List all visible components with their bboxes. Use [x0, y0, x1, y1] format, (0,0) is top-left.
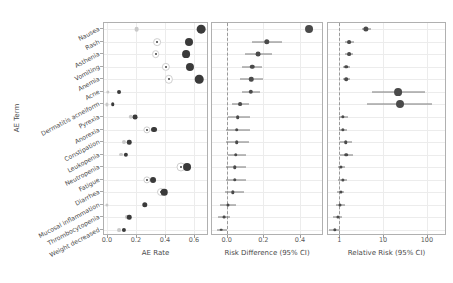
grid-line-horizontal: [212, 104, 322, 105]
x-tick-label: 0.6: [189, 236, 199, 244]
data-point-control: [106, 90, 109, 93]
grid-line-horizontal: [212, 230, 322, 231]
data-point-control-center: [146, 129, 148, 131]
data-point-treatment: [142, 202, 147, 207]
x-tick-label: 0.2: [258, 236, 268, 244]
point-estimate-marker: [345, 78, 349, 82]
point-estimate-marker: [340, 166, 343, 169]
point-estimate-marker: [333, 228, 336, 231]
point-estimate-marker: [339, 191, 342, 194]
data-point-control-center: [156, 41, 158, 43]
point-estimate-marker: [347, 52, 351, 56]
data-point-treatment: [133, 115, 138, 120]
x-tick-label: 0.2: [131, 236, 141, 244]
grid-line-vertical: [427, 23, 428, 234]
data-point-treatment: [161, 189, 168, 196]
point-estimate-marker: [233, 178, 236, 181]
grid-line-vertical: [136, 23, 137, 234]
x-tick-label: 0.4: [295, 236, 305, 244]
point-estimate-marker: [236, 115, 240, 119]
data-point-control-center: [165, 66, 167, 68]
grid-line-vertical: [194, 23, 195, 234]
data-point-control: [119, 153, 123, 157]
grid-line-horizontal: [212, 79, 322, 80]
point-estimate-marker: [239, 103, 243, 107]
data-point-treatment: [121, 228, 125, 232]
point-estimate-marker: [235, 140, 239, 144]
data-point-control: [122, 140, 126, 144]
grid-line-horizontal: [104, 104, 207, 105]
point-estimate-marker: [396, 100, 404, 108]
panel-relative-risk-plot-area: [328, 23, 445, 234]
grid-line-horizontal: [104, 117, 207, 118]
grid-line-horizontal: [104, 217, 207, 218]
point-estimate-marker: [345, 65, 349, 69]
panel-risk-difference-plot-area: [212, 23, 322, 234]
data-point-treatment: [127, 140, 132, 145]
point-estimate-marker: [305, 25, 313, 33]
x-axis-label-risk-difference: Risk Difference (95% CI): [224, 249, 309, 257]
point-estimate-marker: [341, 128, 344, 131]
y-axis-title: AE Term: [13, 104, 21, 132]
point-estimate-marker: [264, 39, 269, 44]
point-estimate-marker: [344, 140, 348, 144]
grid-line-horizontal: [104, 192, 207, 193]
data-point-treatment: [195, 75, 204, 84]
panel-risk-difference: [211, 22, 323, 235]
data-point-treatment: [183, 163, 191, 171]
grid-line-vertical: [165, 23, 166, 234]
data-point-treatment: [185, 38, 193, 46]
point-estimate-marker: [341, 115, 344, 118]
data-point-treatment: [150, 177, 156, 183]
grid-line-horizontal: [212, 67, 322, 68]
point-estimate-marker: [222, 216, 225, 219]
data-point-treatment: [124, 152, 128, 156]
data-point-control-center: [155, 53, 157, 55]
point-estimate-marker: [394, 88, 402, 96]
panel-ae-rate: [103, 22, 208, 235]
data-point-treatment: [111, 103, 115, 107]
x-tick-label: 0.0: [221, 236, 231, 244]
x-axis-label-relative-risk: Relative Risk (95% CI): [348, 249, 425, 257]
x-tick-label: 100: [421, 236, 433, 244]
grid-line-vertical: [383, 23, 384, 234]
data-point-treatment: [182, 50, 190, 58]
data-point-control-center: [168, 78, 170, 80]
x-tick-label: 0.4: [160, 236, 170, 244]
data-point-control: [105, 203, 108, 206]
point-estimate-marker: [235, 128, 239, 132]
point-estimate-marker: [345, 153, 349, 157]
x-tick-label: 10: [379, 236, 387, 244]
point-estimate-marker: [255, 52, 260, 57]
point-estimate-marker: [348, 40, 352, 44]
grid-line-horizontal: [104, 79, 207, 80]
x-tick-label: 1: [337, 236, 341, 244]
data-point-treatment: [151, 127, 157, 133]
point-estimate-marker: [233, 165, 236, 168]
data-point-control: [134, 27, 139, 32]
point-estimate-marker: [250, 65, 255, 70]
point-estimate-marker: [248, 90, 252, 94]
grid-line-horizontal: [104, 29, 207, 30]
data-point-treatment: [117, 90, 121, 94]
data-point-treatment: [197, 25, 206, 34]
grid-line-horizontal: [104, 142, 207, 143]
panel-relative-risk: [327, 22, 446, 235]
grid-line-vertical: [300, 23, 301, 234]
y-axis-label-rash: Rash: [84, 38, 101, 51]
adverse-events-forest-plot-figure: AE Term NauseaRashAstheniaVomitingAnemia…: [0, 0, 453, 283]
y-axis-label-acne: Acne: [84, 88, 101, 101]
grid-line-horizontal: [104, 205, 207, 206]
data-point-control: [105, 103, 108, 106]
point-estimate-marker: [220, 228, 223, 231]
point-estimate-marker: [226, 203, 229, 206]
point-estimate-marker: [364, 27, 369, 32]
data-point-treatment: [127, 215, 132, 220]
point-estimate-marker: [339, 203, 342, 206]
point-estimate-marker: [341, 178, 344, 181]
point-estimate-marker: [231, 190, 234, 193]
panel-ae-rate-plot-area: [104, 23, 207, 234]
x-tick-label: 0.0: [102, 236, 112, 244]
point-estimate-marker: [234, 153, 238, 157]
point-estimate-marker: [249, 77, 253, 81]
